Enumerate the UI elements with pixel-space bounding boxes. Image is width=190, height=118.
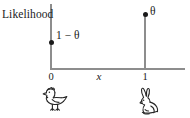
data-point-at-zero xyxy=(49,40,54,45)
chicken-icon xyxy=(38,84,72,116)
stem-at-one xyxy=(144,14,146,69)
x-axis-label: x xyxy=(92,70,106,82)
data-label-at-zero: 1 − θ xyxy=(56,29,80,41)
y-axis-label: Likelihood xyxy=(2,8,53,20)
stem-at-zero xyxy=(50,42,52,69)
x-axis-line xyxy=(50,68,185,70)
likelihood-stem-plot: Likelihood 1 − θ θ 0 1 x xyxy=(0,0,190,118)
x-tick-label-one: 1 xyxy=(138,71,152,82)
rabbit-icon xyxy=(132,85,168,117)
data-label-at-one: θ xyxy=(150,5,156,17)
data-point-at-one xyxy=(143,12,148,17)
x-tick-label-zero: 0 xyxy=(44,71,58,82)
